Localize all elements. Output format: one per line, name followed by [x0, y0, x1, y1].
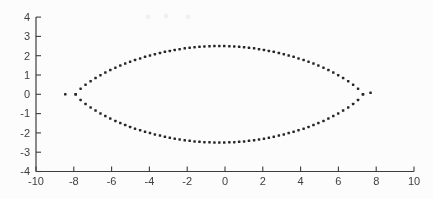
- data-point: [154, 133, 157, 136]
- data-point: [332, 115, 335, 118]
- data-point: [144, 56, 147, 59]
- data-point: [139, 129, 142, 132]
- data-point: [218, 141, 221, 144]
- data-point: [357, 99, 360, 102]
- x-tick-label: 8: [373, 175, 379, 187]
- data-point: [104, 71, 107, 74]
- y-tick-label: 1: [24, 69, 30, 81]
- data-point: [228, 45, 231, 48]
- data-point: [337, 74, 340, 77]
- data-point: [342, 77, 345, 80]
- data-point: [312, 124, 315, 127]
- data-point: [369, 92, 372, 95]
- data-point: [258, 48, 261, 51]
- data-point: [352, 103, 355, 106]
- data-point: [124, 62, 127, 65]
- data-point: [228, 141, 231, 144]
- data-point: [114, 66, 117, 69]
- data-point: [208, 45, 211, 48]
- data-point: [183, 47, 186, 50]
- data-point: [233, 141, 236, 144]
- data-point: [89, 106, 92, 109]
- data-point: [223, 45, 226, 48]
- data-point: [109, 69, 112, 72]
- data-point: [104, 115, 107, 118]
- data-point: [94, 77, 97, 80]
- data-point: [332, 71, 335, 74]
- data-point: [327, 117, 330, 120]
- data-point: [287, 132, 290, 135]
- data-point: [253, 139, 256, 142]
- data-point: [109, 117, 112, 120]
- scan-artifacts: [146, 14, 191, 20]
- data-point: [297, 129, 300, 132]
- data-point: [173, 137, 176, 140]
- y-tick-label: 2: [24, 50, 30, 62]
- data-point: [248, 140, 251, 143]
- data-point: [213, 45, 216, 48]
- data-point: [278, 134, 281, 137]
- data-point: [84, 83, 87, 86]
- x-tick-label: -8: [69, 175, 79, 187]
- data-point: [84, 103, 87, 106]
- data-point: [198, 46, 201, 49]
- data-point: [362, 93, 365, 96]
- data-point: [119, 64, 122, 67]
- scatter-figure: -10-8-6-4-20246810-4-3-2-101234: [0, 0, 433, 199]
- data-point: [292, 56, 295, 59]
- x-tick-label: -6: [107, 175, 117, 187]
- data-point: [322, 120, 325, 123]
- data-point: [164, 51, 167, 54]
- data-point: [233, 45, 236, 48]
- data-point: [292, 130, 295, 133]
- data-point: [154, 53, 157, 56]
- data-point: [193, 140, 196, 143]
- scan-smudge: [164, 14, 169, 19]
- x-tick-label: -10: [28, 175, 44, 187]
- data-point: [198, 141, 201, 144]
- data-point: [208, 141, 211, 144]
- data-point: [297, 57, 300, 60]
- data-point: [317, 122, 320, 125]
- x-tick-label: 4: [298, 175, 304, 187]
- data-point: [347, 80, 350, 83]
- data-point: [268, 50, 271, 53]
- data-point: [173, 49, 176, 52]
- data-point: [134, 59, 137, 62]
- data-point: [312, 62, 315, 65]
- data-point: [213, 141, 216, 144]
- data-point: [342, 109, 345, 112]
- data-point: [258, 138, 261, 141]
- data-point: [124, 124, 127, 127]
- y-tick-label: 3: [24, 30, 30, 42]
- x-tick-label: 6: [335, 175, 341, 187]
- data-point: [263, 49, 266, 52]
- data-point: [268, 136, 271, 139]
- data-point: [188, 140, 191, 143]
- data-point: [99, 112, 102, 115]
- data-point: [283, 133, 286, 136]
- data-point: [64, 93, 67, 96]
- data-point: [248, 47, 251, 50]
- data-point: [134, 127, 137, 129]
- data-point: [253, 47, 256, 50]
- data-point: [129, 60, 132, 63]
- y-tick-label: -4: [20, 165, 30, 177]
- data-point: [119, 122, 122, 125]
- scan-smudge: [186, 15, 191, 20]
- data-point: [307, 126, 310, 128]
- data-point: [223, 141, 226, 144]
- data-point: [302, 127, 305, 129]
- data-point: [169, 136, 172, 139]
- data-points: [64, 45, 372, 144]
- x-tick-label: 0: [222, 175, 228, 187]
- data-point: [327, 69, 330, 72]
- data-point: [287, 54, 290, 57]
- data-point: [357, 87, 360, 90]
- data-point: [193, 46, 196, 49]
- data-point: [159, 52, 162, 55]
- x-tick-label: -2: [182, 175, 192, 187]
- data-point: [218, 45, 221, 48]
- y-tick-label: -3: [20, 146, 30, 158]
- y-tick-label: 0: [24, 88, 30, 100]
